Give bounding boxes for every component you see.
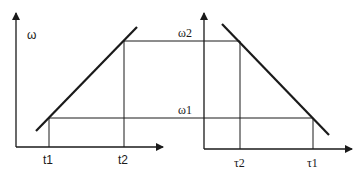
tau1-tick-label: τ1 xyxy=(307,156,318,170)
left-plot: ω t1 t2 xyxy=(16,13,163,167)
left-rising-line xyxy=(36,27,137,131)
right-plot: ω2 ω1 τ2 τ1 xyxy=(178,13,352,170)
omega-axis-label: ω xyxy=(27,28,36,42)
omega2-tick-label: ω2 xyxy=(178,26,192,40)
t2-tick-label: t2 xyxy=(118,153,128,167)
t1-tick-label: t1 xyxy=(43,153,53,167)
tau2-tick-label: τ2 xyxy=(234,156,245,170)
diagram-canvas: ω t1 t2 ω2 ω1 τ2 τ1 xyxy=(0,0,361,177)
omega1-tick-label: ω1 xyxy=(178,103,192,117)
